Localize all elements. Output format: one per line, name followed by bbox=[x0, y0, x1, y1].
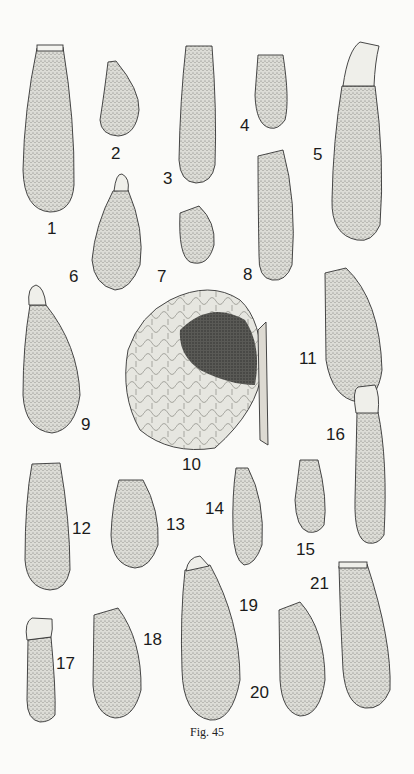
specimen-21 bbox=[339, 564, 390, 708]
label-4: 4 bbox=[240, 117, 249, 134]
label-16: 16 bbox=[326, 426, 345, 443]
label-9: 9 bbox=[81, 416, 90, 433]
figure-plate: 1 2 3 4 5 6 7 8 9 10 11 12 13 14 15 16 1… bbox=[0, 0, 414, 774]
specimen-4 bbox=[255, 55, 287, 128]
label-6: 6 bbox=[69, 268, 78, 285]
specimen-13 bbox=[111, 480, 158, 568]
label-11: 11 bbox=[299, 350, 317, 367]
label-14: 14 bbox=[205, 500, 224, 517]
label-13: 13 bbox=[166, 516, 185, 533]
specimen-7 bbox=[180, 206, 214, 263]
specimen-16 bbox=[355, 412, 385, 543]
specimen-15 bbox=[295, 460, 325, 532]
label-19: 19 bbox=[239, 597, 258, 614]
specimen-2 bbox=[100, 61, 139, 136]
specimen-5 bbox=[332, 86, 382, 240]
figure-caption: Fig. 45 bbox=[0, 725, 414, 740]
label-20: 20 bbox=[250, 684, 269, 701]
specimen-14 bbox=[233, 468, 263, 565]
label-21: 21 bbox=[310, 575, 329, 592]
label-15: 15 bbox=[296, 541, 315, 558]
label-12: 12 bbox=[72, 520, 91, 537]
label-3: 3 bbox=[163, 170, 172, 187]
specimen-18 bbox=[93, 608, 141, 718]
specimen-3 bbox=[179, 46, 216, 183]
specimen-8 bbox=[258, 150, 293, 280]
label-10: 10 bbox=[182, 456, 201, 473]
label-8: 8 bbox=[243, 266, 252, 283]
label-17: 17 bbox=[56, 655, 75, 672]
specimen-1 bbox=[23, 47, 74, 212]
label-18: 18 bbox=[143, 631, 162, 648]
specimen-20 bbox=[279, 602, 325, 716]
specimen-11 bbox=[325, 268, 382, 402]
specimen-9 bbox=[23, 305, 80, 433]
label-2: 2 bbox=[111, 145, 120, 162]
specimen-17 bbox=[27, 637, 55, 722]
specimen-12 bbox=[25, 463, 70, 590]
specimen-6 bbox=[92, 190, 141, 290]
label-7: 7 bbox=[157, 268, 166, 285]
label-1: 1 bbox=[47, 220, 56, 237]
label-5: 5 bbox=[313, 146, 322, 163]
specimen-19 bbox=[181, 565, 240, 720]
